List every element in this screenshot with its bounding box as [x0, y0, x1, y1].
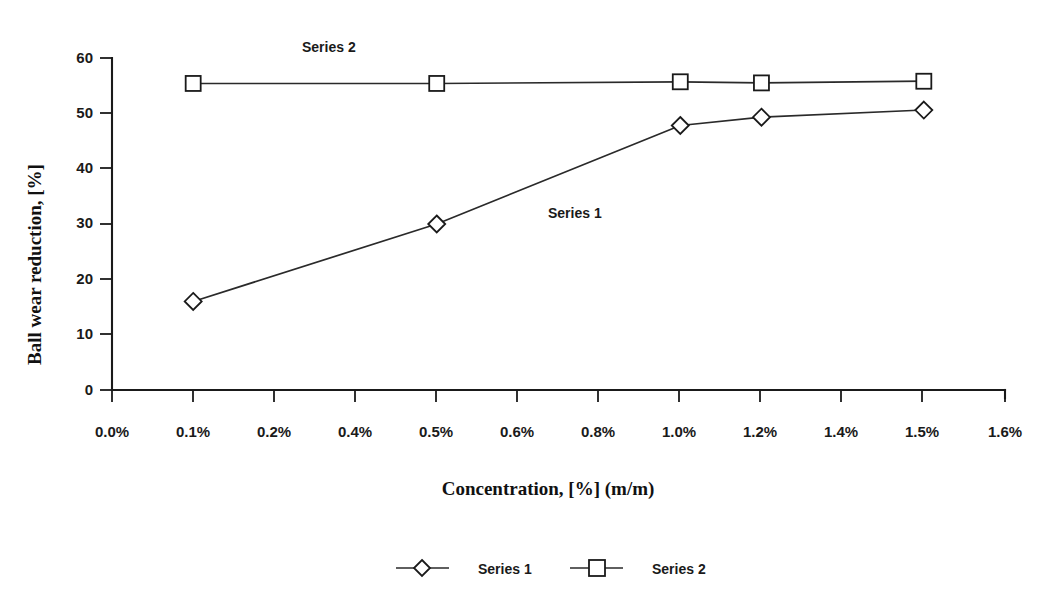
x-tick-label: 0.4%	[338, 423, 372, 440]
x-tick-label: 1.5%	[905, 423, 939, 440]
x-tick-label: 1.6%	[988, 423, 1022, 440]
diamond-marker-icon	[428, 216, 445, 233]
diamond-marker-icon	[185, 293, 202, 310]
x-tick-label: 1.0%	[662, 423, 696, 440]
series-2-line	[193, 81, 924, 83]
y-tick-label: 30	[76, 214, 93, 231]
x-tick-label: 0.8%	[581, 423, 615, 440]
y-tick-label: 50	[76, 104, 93, 121]
diamond-marker-icon	[672, 117, 689, 134]
series-1-annotation: Series 1	[548, 205, 602, 221]
square-marker-icon	[429, 76, 444, 91]
y-tick-label: 10	[76, 325, 93, 342]
diamond-marker-icon	[753, 109, 770, 126]
chart-page: Ball wear reduction, [%] 60 50 40 30 20 …	[0, 0, 1046, 602]
series-layer	[185, 74, 933, 310]
line-chart: Ball wear reduction, [%] 60 50 40 30 20 …	[0, 0, 1046, 602]
series-2-annotation: Series 2	[302, 39, 356, 55]
legend-entry-series-1[interactable]: Series 1	[396, 560, 532, 577]
y-tick-label: 60	[76, 49, 93, 66]
x-tick-label: 0.0%	[95, 423, 129, 440]
x-tick-label: 0.6%	[500, 423, 534, 440]
legend-label-series-2: Series 2	[652, 561, 706, 577]
x-axis-ticks	[112, 390, 1005, 402]
x-tick-label: 0.2%	[257, 423, 291, 440]
x-tick-labels: 0.0% 0.1% 0.2% 0.4% 0.5% 0.6% 0.8% 1.0% …	[95, 423, 1022, 440]
x-tick-label: 1.2%	[743, 423, 777, 440]
square-marker-icon	[916, 74, 931, 89]
square-marker-icon	[673, 74, 688, 89]
chart-legend: Series 1 Series 2	[396, 560, 706, 577]
square-marker-icon	[589, 560, 605, 576]
x-tick-label: 0.1%	[176, 423, 210, 440]
diamond-marker-icon	[414, 560, 430, 576]
diamond-marker-icon	[915, 102, 932, 119]
y-tick-labels: 60 50 40 30 20 10 0	[76, 49, 93, 398]
legend-entry-series-2[interactable]: Series 2	[570, 560, 706, 577]
x-tick-label: 1.4%	[824, 423, 858, 440]
square-marker-icon	[186, 76, 201, 91]
y-tick-label: 40	[76, 159, 93, 176]
y-axis-title: Ball wear reduction, [%]	[24, 164, 45, 365]
square-marker-icon	[754, 75, 769, 90]
x-axis-title: Concentration, [%] (m/m)	[442, 478, 655, 500]
y-tick-label: 20	[76, 270, 93, 287]
y-tick-label: 0	[85, 381, 93, 398]
x-tick-label: 0.5%	[419, 423, 453, 440]
y-axis-ticks	[100, 58, 112, 390]
legend-label-series-1: Series 1	[478, 561, 532, 577]
series-2-group	[186, 74, 932, 91]
